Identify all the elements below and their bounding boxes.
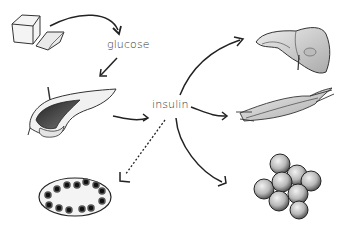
arrow-glucose-to-pancreas — [100, 58, 117, 76]
diagram-canvas — [0, 0, 350, 238]
arrow-pancreas-to-insulin — [113, 114, 148, 121]
muscle-icon — [236, 88, 334, 121]
fat-cells-icon — [254, 154, 321, 219]
glucose-label: glucose — [107, 38, 150, 51]
arrow-insulin-to-islet-dashed — [120, 120, 165, 182]
arrow-insulin-to-muscle — [191, 107, 227, 120]
bread-icon — [12, 15, 64, 50]
diagram-svg — [0, 0, 350, 238]
arrow-insulin-to-fat — [176, 118, 226, 186]
liver-icon — [256, 28, 330, 74]
arrow-insulin-to-liver — [180, 37, 243, 95]
islet-cell-icon — [39, 178, 111, 216]
arrow-bread-to-glucose — [50, 15, 121, 34]
pancreas-icon — [28, 87, 116, 137]
insulin-label: insulin — [152, 98, 189, 111]
